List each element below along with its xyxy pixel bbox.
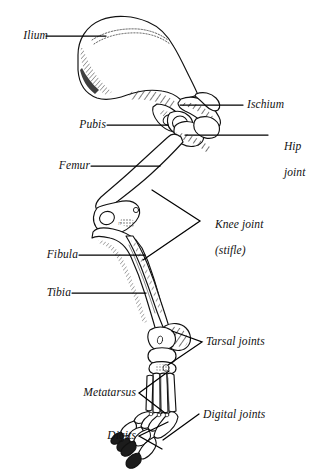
metatarsus-bones [146,373,176,413]
label-digital-joints: Digital joints [203,408,265,421]
label-hip-joint-line2: joint [284,166,306,178]
label-knee-joint: Knee joint (stifle) [203,205,264,269]
label-fibula: Fibula [32,248,78,261]
anatomical-figure: !! [0,0,310,472]
tibia-bone [92,228,166,331]
tarsal-joints-region [148,324,191,376]
label-femur: Femur [44,159,90,172]
femur-bone [96,134,183,211]
label-ilium: Ilium [8,29,48,42]
label-hip-joint: Hip joint [272,127,306,191]
skeleton-illustration: !! [0,0,310,472]
label-pubis: Pubis [62,118,106,131]
ilium-bone [78,16,198,108]
label-knee-joint-line1: Knee joint [215,218,264,230]
leader-knee-joint-bracket [143,190,200,260]
svg-text:!!: !! [118,221,122,226]
label-tarsal-joints: Tarsal joints [206,335,265,348]
label-tibia: Tibia [32,286,71,299]
label-knee-joint-line2: (stifle) [215,244,246,256]
label-hip-joint-line1: Hip [284,140,302,152]
label-digits: Digits [76,429,136,442]
label-metatarsus: Metatarsus [62,386,136,399]
label-ischium: Ischium [247,98,284,111]
